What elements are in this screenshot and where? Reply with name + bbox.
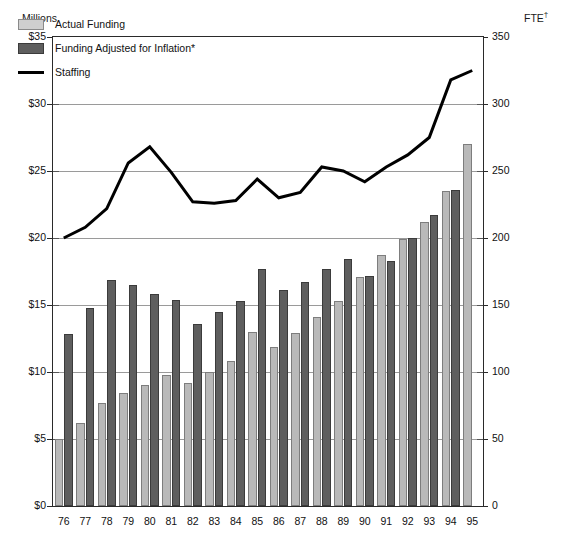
left-axis-tick-label: $20	[6, 231, 46, 243]
left-axis-tick-label: $25	[6, 164, 46, 176]
plot-area	[52, 36, 484, 507]
left-axis-tick-label: $5	[6, 432, 46, 444]
right-axis-tick-label: 100	[492, 365, 532, 377]
staffing-line-series	[53, 37, 483, 506]
legend-swatch-actual-funding	[18, 19, 44, 30]
right-axis-tick-label: 0	[492, 499, 532, 511]
legend-item-actual-funding: Actual Funding	[18, 14, 195, 34]
right-axis-dagger: †	[544, 10, 548, 19]
legend-item-inflation-adjusted: Funding Adjusted for Inflation*	[18, 38, 195, 58]
legend-swatch-staffing	[18, 67, 44, 78]
left-axis-tick-label: $15	[6, 298, 46, 310]
legend-label-staffing: Staffing	[55, 66, 90, 78]
legend-label-actual-funding: Actual Funding	[55, 18, 125, 30]
left-axis-tick-label: $0	[6, 499, 46, 511]
right-axis-tick-label: 350	[492, 30, 532, 42]
funding-staffing-chart: Millions FTE† $0$5$10$15$20$25$30$35 050…	[0, 0, 561, 553]
chart-legend: Actual Funding Funding Adjusted for Infl…	[18, 14, 195, 86]
staffing-line	[64, 71, 473, 239]
right-axis-tick-label: 300	[492, 97, 532, 109]
right-axis-tick-label: 250	[492, 164, 532, 176]
right-axis-tick-label: 200	[492, 231, 532, 243]
right-axis-title: FTE†	[524, 10, 548, 24]
legend-label-inflation-adjusted: Funding Adjusted for Inflation*	[55, 42, 195, 54]
x-axis-tick-label: 95	[456, 515, 488, 527]
right-axis-tick-label: 150	[492, 298, 532, 310]
right-axis-tick-label: 50	[492, 432, 532, 444]
right-axis-title-text: FTE	[524, 12, 544, 24]
left-axis-tick-label: $10	[6, 365, 46, 377]
legend-swatch-inflation-adjusted	[18, 43, 44, 54]
left-axis-tick-label: $30	[6, 97, 46, 109]
legend-item-staffing: Staffing	[18, 62, 195, 82]
